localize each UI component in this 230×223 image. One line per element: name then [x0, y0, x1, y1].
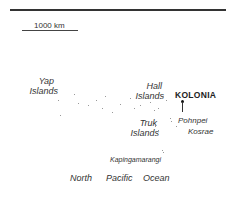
yap-label-line1: Yap: [36, 76, 58, 86]
ocean-label-pacific: Pacific: [106, 173, 133, 183]
island-speck: [163, 96, 164, 97]
island-speck: [130, 98, 131, 99]
truk-label-line2: Islands: [123, 128, 159, 138]
island-speck: [176, 126, 177, 127]
island-speck: [158, 108, 159, 109]
island-speck: [170, 118, 171, 119]
hall-label-line1: Hall: [142, 81, 164, 91]
ocean-label-north: North: [70, 173, 92, 183]
scale-label: 1000 km: [34, 21, 65, 30]
yap-label-line2: Islands: [24, 86, 58, 96]
island-speck: [166, 100, 167, 101]
hall-label: Hall Islands: [142, 81, 164, 101]
island-speck: [58, 100, 59, 101]
island-speck: [140, 105, 141, 106]
island-speck: [78, 103, 79, 104]
island-speck: [102, 108, 103, 109]
pohnpei-pointer: [182, 102, 183, 112]
island-speck: [112, 112, 113, 113]
island-speck: [150, 102, 151, 103]
island-speck: [134, 108, 135, 109]
island-speck: [154, 110, 155, 111]
map: 1000 km Yap Islands Hall Islands KOLONIA…: [0, 0, 230, 223]
kosrae-label: Kosrae: [188, 127, 213, 137]
hall-label-line2: Islands: [130, 91, 164, 101]
ocean-label-ocean: Ocean: [143, 173, 170, 183]
island-speck: [163, 152, 164, 153]
yap-label: Yap Islands: [36, 76, 58, 96]
island-speck: [171, 121, 172, 122]
island-speck: [88, 105, 89, 106]
island-speck: [105, 96, 106, 97]
island-speck: [74, 94, 75, 95]
kapingamarangi-label: Kapingamarangi: [110, 155, 161, 165]
map-border-line: [10, 9, 226, 11]
island-speck: [120, 104, 121, 105]
island-speck: [162, 150, 163, 151]
truk-label: Truk Islands: [133, 118, 159, 138]
island-speck: [60, 115, 61, 116]
island-speck: [96, 100, 97, 101]
island-speck: [155, 126, 156, 127]
capital-label: KOLONIA: [175, 90, 216, 100]
island-speck: [158, 130, 159, 131]
pohnpei-label: Pohnpei: [178, 116, 207, 126]
scale-bar: [22, 30, 78, 31]
